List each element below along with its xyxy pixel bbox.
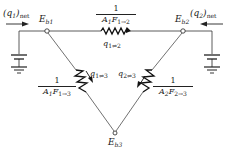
flow-1-2-label: q1⇌2 bbox=[103, 40, 121, 49]
flow-2-3-label: q2⇌3 bbox=[118, 70, 136, 79]
flow-1-3-label: q1⇌3 bbox=[90, 70, 108, 79]
node-eb2-label: Eb2 bbox=[175, 15, 189, 25]
q1-arrow-icon bbox=[6, 22, 29, 27]
q1-net-label: (q1)net bbox=[3, 9, 29, 19]
right-source-wire bbox=[185, 31, 212, 54]
node-eb1 bbox=[45, 29, 49, 33]
resistance-1-3-label: 1 A1F1→3 bbox=[38, 77, 76, 97]
node-eb1-label: Eb1 bbox=[39, 15, 53, 25]
left-source-wire bbox=[19, 31, 45, 54]
node-eb3 bbox=[113, 131, 117, 135]
right-ground-icon bbox=[204, 55, 220, 73]
resistance-1-2-label: 1 A1F1→2 bbox=[96, 5, 136, 25]
q2-net-label: (q2)net bbox=[190, 9, 216, 19]
flow-arrow-2-3-icon bbox=[137, 76, 145, 88]
resistance-2-3-label: 1 A2F2→3 bbox=[153, 77, 193, 97]
resistor-1-2-icon bbox=[101, 28, 130, 34]
resistor-1-3-icon bbox=[75, 70, 87, 92]
q2-arrow-icon bbox=[200, 22, 223, 27]
node-eb3-label: Eb3 bbox=[108, 138, 122, 148]
left-ground-icon bbox=[11, 55, 27, 73]
node-eb2 bbox=[181, 29, 185, 33]
